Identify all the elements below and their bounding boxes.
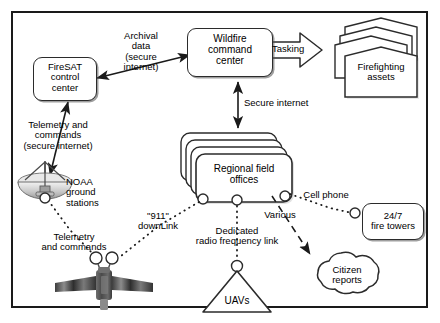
telemetry-secure-internet-arrow — [50, 102, 68, 175]
telemetry-commands-line — [45, 196, 95, 256]
archival-data-arrow — [97, 55, 190, 78]
fire-towers-box[interactable] — [362, 203, 424, 240]
uavs-shape[interactable] — [203, 261, 271, 313]
satellite-shape[interactable] — [55, 252, 153, 310]
citizen-reports-shape[interactable] — [318, 252, 379, 293]
tasking-block-arrow[interactable] — [272, 33, 322, 67]
firefighting-assets-shape[interactable] — [335, 18, 419, 99]
firesat-control-center-box[interactable] — [33, 57, 97, 101]
connector-nub-cellphone — [280, 191, 290, 201]
noaa-dish-antenna[interactable] — [18, 161, 72, 203]
downlink-911-line — [121, 202, 199, 256]
connector-nub-fire-towers — [350, 208, 360, 218]
wildfire-command-center-box[interactable] — [187, 28, 273, 77]
cell-phone-line — [290, 194, 352, 213]
diagram-canvas: FireSAT control center Wildfire command … — [0, 0, 440, 323]
various-arrow — [272, 196, 310, 254]
regional-field-offices-shape[interactable] — [181, 133, 294, 204]
connector-nub-radio — [232, 195, 242, 205]
